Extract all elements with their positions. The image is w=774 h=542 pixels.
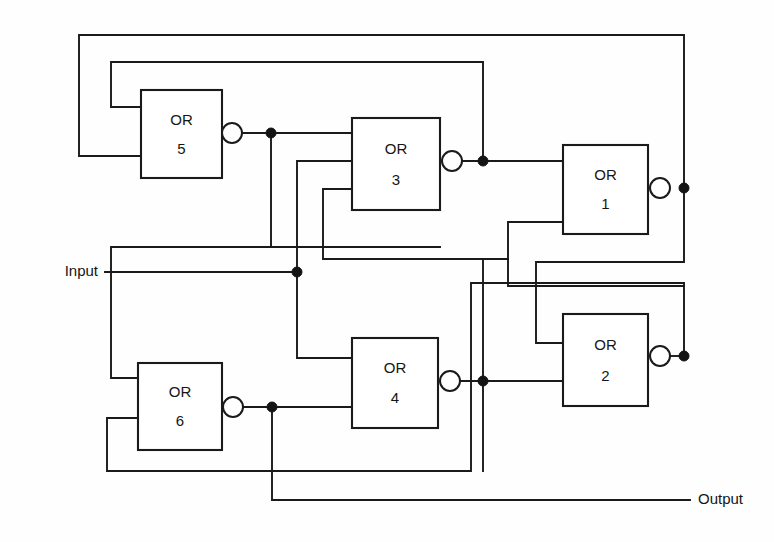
gate-or4[interactable]: OR4 xyxy=(352,338,438,428)
circuit-schematic-canvas: OR5OR3OR1OR2OR4OR6 InputOutput xyxy=(0,0,774,542)
gate-number-label-or2: 2 xyxy=(601,367,609,384)
gate-type-label-or6: OR xyxy=(169,383,192,400)
gate-number-label-or6: 6 xyxy=(176,412,184,429)
junction-dot-or1-out xyxy=(679,183,689,193)
gate-number-label-or4: 4 xyxy=(391,389,399,406)
gate-body-or3 xyxy=(352,118,440,210)
inverter-bubble-or6 xyxy=(223,397,243,417)
gate-number-label-or3: 3 xyxy=(392,171,400,188)
junction-dot-or4-out xyxy=(478,376,488,386)
junction-dot-or2-out xyxy=(679,351,689,361)
gate-body-or2 xyxy=(563,314,648,406)
junction-dot-or5-out xyxy=(266,128,276,138)
gate-body-or4 xyxy=(352,338,438,428)
inverter-bubble-or1 xyxy=(650,178,670,198)
wire-w-input-down-or4 xyxy=(297,272,352,358)
gate-or1[interactable]: OR1 xyxy=(563,145,648,234)
inverter-bubble-or3 xyxy=(442,151,462,171)
gate-type-label-or3: OR xyxy=(385,140,408,157)
inverter-bubble-or2 xyxy=(650,346,670,366)
gate-number-label-or1: 1 xyxy=(601,195,609,212)
gate-body-or1 xyxy=(563,145,648,234)
gate-body-or6 xyxy=(138,363,222,450)
gate-type-label-or2: OR xyxy=(594,336,617,353)
junction-dot-or3-out xyxy=(478,156,488,166)
gates-layer: OR5OR3OR1OR2OR4OR6 xyxy=(138,90,648,450)
gate-type-label-or5: OR xyxy=(170,111,193,128)
junction-dot-input xyxy=(292,267,302,277)
inverter-bubble-or4 xyxy=(440,371,460,391)
gate-type-label-or4: OR xyxy=(384,359,407,376)
wire-w-input-down-or6 xyxy=(111,272,138,378)
gate-or3[interactable]: OR3 xyxy=(352,118,440,210)
circuit-diagram: OR5OR3OR1OR2OR4OR6 InputOutput xyxy=(0,0,774,542)
inverter-bubble-or5 xyxy=(222,123,242,143)
wire-w-input-up-left xyxy=(111,247,323,272)
junction-dot-or6-out xyxy=(267,402,277,412)
gate-number-label-or5: 5 xyxy=(177,140,185,157)
gate-or2[interactable]: OR2 xyxy=(563,314,648,406)
gate-or6[interactable]: OR6 xyxy=(138,363,222,450)
wire-w-input-up-or3 xyxy=(297,161,352,272)
gate-or5[interactable]: OR5 xyxy=(141,90,222,178)
io-label-input-port: Input xyxy=(65,262,99,279)
gate-body-or5 xyxy=(141,90,222,178)
io-label-output-port: Output xyxy=(698,490,744,507)
wire-w-or6-to-output xyxy=(272,407,690,500)
gate-type-label-or1: OR xyxy=(594,166,617,183)
